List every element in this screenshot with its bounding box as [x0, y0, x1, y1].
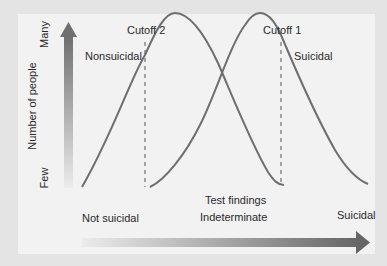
- x-axis-middle-label: Indeterminate: [200, 211, 267, 223]
- nonsuicidal-label: Nonsuicidal: [85, 50, 142, 62]
- suicidal-curve-label: Suicidal: [294, 50, 333, 62]
- nonsuicidal-curve: [82, 13, 284, 187]
- distribution-diagram: [0, 0, 387, 266]
- cutoff-1-label: Cutoff 1: [263, 24, 301, 36]
- x-axis-right-label: Suicidal: [337, 209, 376, 221]
- y-axis-arrow: [60, 22, 77, 188]
- y-axis-few-label: Few: [38, 167, 50, 189]
- y-axis-label: Number of people: [26, 61, 38, 151]
- x-axis-left-label: Not suicidal: [82, 212, 139, 224]
- cutoff-2-label: Cutoff 2: [127, 24, 165, 36]
- y-axis-many-label: Many: [38, 22, 50, 48]
- suicidal-curve: [150, 13, 368, 187]
- x-axis-title: Test findings: [205, 194, 266, 206]
- x-axis-arrow: [82, 231, 370, 254]
